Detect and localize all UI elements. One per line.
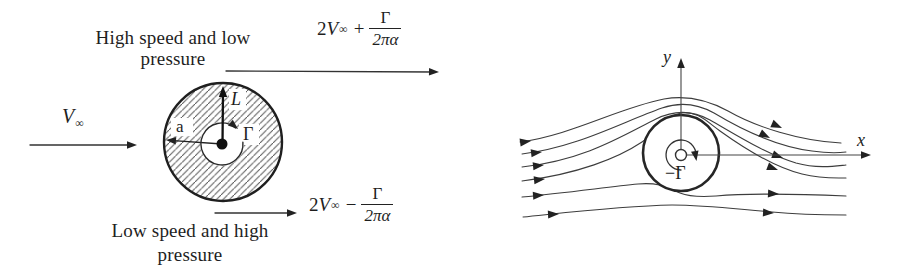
formula-top-denominator: 2πα xyxy=(369,28,401,50)
circulation-right-label: −Γ xyxy=(665,164,686,184)
formula-bottom: 2V∞ − Γ 2πα xyxy=(309,185,393,225)
streamline-right-arrowheads xyxy=(758,120,784,217)
formula-top-numerator: Γ xyxy=(380,9,390,28)
streamline-left-arrowheads xyxy=(520,137,560,219)
figure-canvas: High speed and low pressure Low speed an… xyxy=(0,0,912,269)
lift-label: L xyxy=(231,90,241,110)
streamline-6 xyxy=(523,205,846,217)
cylinder-center-dot xyxy=(217,139,228,150)
velocity-top-arrowhead-icon xyxy=(429,68,439,76)
circulation-label: Γ xyxy=(243,125,253,145)
top-caption-line2: pressure xyxy=(141,49,206,70)
freestream-subscript: ∞ xyxy=(75,116,84,130)
velocity-top-arrow xyxy=(226,71,434,72)
formula-top: 2V∞ + Γ 2πα xyxy=(317,9,401,49)
x-axis-arrowhead-icon xyxy=(861,151,871,159)
formula-top-operator: + xyxy=(354,18,365,40)
formula-bottom-subscript: ∞ xyxy=(331,198,340,213)
formula-bottom-denominator: 2πα xyxy=(361,204,393,226)
formula-bottom-numerator: Γ xyxy=(372,185,382,204)
formula-top-fraction: Γ 2πα xyxy=(369,9,401,49)
formula-top-subscript: ∞ xyxy=(339,22,348,37)
bottom-caption-line1: Low speed and high xyxy=(111,221,268,242)
lift-arrow xyxy=(223,91,224,144)
freestream-symbol: V xyxy=(62,105,74,127)
y-axis-label: y xyxy=(663,48,671,68)
velocity-bottom-arrowhead-icon xyxy=(287,209,297,217)
formula-bottom-coefficient: 2 xyxy=(309,194,319,216)
radius-label: a xyxy=(176,118,184,137)
x-axis-label: x xyxy=(857,131,865,151)
formula-top-symbol: V xyxy=(327,18,339,40)
y-axis-arrowhead-icon xyxy=(677,58,685,68)
freestream-arrowhead-icon xyxy=(127,141,137,149)
top-caption-line1: High speed and low xyxy=(95,28,250,49)
freestream-label: V∞ xyxy=(62,105,84,130)
streamline-figure xyxy=(520,58,871,219)
bottom-caption-line2: pressure xyxy=(158,245,223,266)
formula-bottom-operator: − xyxy=(346,194,357,216)
formula-top-coefficient: 2 xyxy=(317,18,327,40)
formula-bottom-fraction: Γ 2πα xyxy=(361,185,393,225)
vortex-center xyxy=(676,150,687,161)
formula-bottom-symbol: V xyxy=(319,194,331,216)
